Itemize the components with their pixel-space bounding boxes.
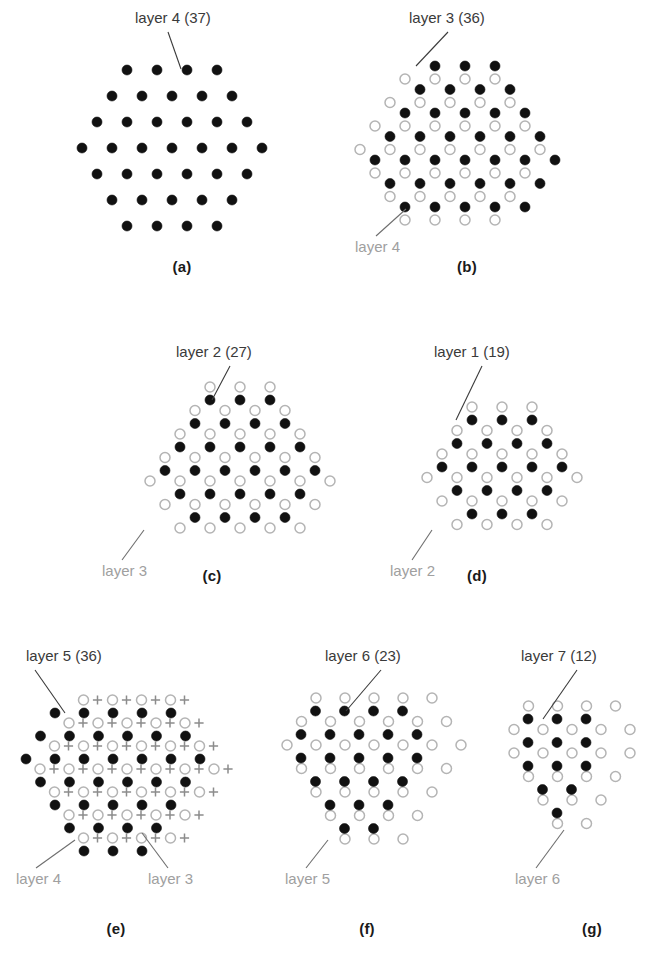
lattice-node-filled xyxy=(242,169,252,179)
panel-d-secondary-label-1: layer 2 xyxy=(390,562,435,579)
lattice-node-filled xyxy=(523,738,533,748)
lattice-node-open xyxy=(467,496,477,506)
panel-g-lattice: layer 7 (12) layer 6 xyxy=(485,644,670,889)
panel-b-primary-label: layer 3 (36) xyxy=(409,9,485,26)
lattice-node-filled xyxy=(467,509,477,519)
lattice-node-open xyxy=(166,833,176,843)
lattice-node-filled xyxy=(490,202,500,212)
lattice-node-open xyxy=(190,406,200,416)
lattice-node-open xyxy=(355,764,365,774)
lattice-node-filled xyxy=(412,730,422,740)
lattice-node-filled xyxy=(490,61,500,71)
lattice-node-filled xyxy=(205,489,215,499)
lattice-node-filled xyxy=(181,731,191,741)
lattice-node-open xyxy=(475,192,485,202)
lattice-node-filled xyxy=(181,777,191,787)
panel-e: layer 5 (36) layer 4 layer 3 xyxy=(8,644,258,889)
lattice-node-open xyxy=(250,453,260,463)
lattice-node-filled xyxy=(227,195,237,205)
lattice-node-open xyxy=(79,787,89,797)
lattice-node-filled xyxy=(250,513,260,523)
lattice-node-filled xyxy=(36,777,46,787)
lattice-node-open xyxy=(427,693,437,703)
lattice-node-open xyxy=(280,500,290,510)
panel-g-leader-line xyxy=(543,670,577,719)
lattice-node-plus xyxy=(165,810,174,819)
lattice-node-open xyxy=(145,476,155,486)
lattice-node-open xyxy=(505,98,515,108)
lattice-node-open xyxy=(311,693,321,703)
panel-c: layer 2 (27) layer 3 xyxy=(120,344,390,574)
lattice-node-filled xyxy=(122,169,132,179)
lattice-node-open xyxy=(180,810,190,820)
lattice-node-filled xyxy=(385,132,395,142)
lattice-node-open xyxy=(205,429,215,439)
lattice-node-open xyxy=(370,168,380,178)
panel-e-secondary-label-1: layer 4 xyxy=(16,870,61,887)
lattice-node-plus xyxy=(209,741,218,750)
lattice-node-open xyxy=(430,74,440,84)
lattice-node-plus xyxy=(122,695,131,704)
lattice-node-open xyxy=(538,748,548,758)
panel-f-primary-label: layer 6 (23) xyxy=(325,647,401,664)
lattice-node-open xyxy=(445,145,455,155)
lattice-node-filled xyxy=(398,706,408,716)
lattice-node-filled xyxy=(212,117,222,127)
lattice-node-open xyxy=(385,145,395,155)
panel-f-nodes xyxy=(282,693,466,844)
lattice-node-open xyxy=(280,406,290,416)
lattice-node-filled xyxy=(235,442,245,452)
lattice-node-filled xyxy=(505,179,515,189)
panel-e-secondary-label-2: layer 3 xyxy=(148,870,193,887)
panel-g-nodes xyxy=(509,701,635,829)
lattice-node-open xyxy=(108,741,118,751)
lattice-node-open xyxy=(509,748,519,758)
lattice-node-open xyxy=(64,764,74,774)
lattice-node-filled xyxy=(182,117,192,127)
panel-d-lattice: layer 1 (19) layer 2 xyxy=(390,344,650,574)
lattice-node-filled xyxy=(166,800,176,810)
lattice-node-filled xyxy=(430,155,440,165)
lattice-node-open xyxy=(482,426,492,436)
lattice-node-open xyxy=(512,520,522,530)
lattice-node-filled xyxy=(92,169,102,179)
lattice-node-filled xyxy=(166,754,176,764)
lattice-node-filled xyxy=(280,466,290,476)
lattice-node-filled xyxy=(190,419,200,429)
lattice-node-open xyxy=(490,121,500,131)
lattice-node-plus xyxy=(194,810,203,819)
panel-b-leader-line xyxy=(416,32,448,66)
lattice-node-filled xyxy=(242,117,252,127)
lattice-node-filled xyxy=(122,117,132,127)
lattice-node-filled xyxy=(369,777,379,787)
lattice-node-filled xyxy=(123,823,133,833)
lattice-node-open xyxy=(505,145,515,155)
lattice-node-open xyxy=(596,795,606,805)
lattice-node-filled xyxy=(552,761,562,771)
lattice-node-open xyxy=(398,693,408,703)
lattice-node-plus xyxy=(107,810,116,819)
lattice-node-open xyxy=(297,764,307,774)
lattice-node-filled xyxy=(235,489,245,499)
lattice-node-open xyxy=(50,741,60,751)
lattice-node-open xyxy=(442,717,452,727)
panel-f-lattice: layer 6 (23) layer 5 xyxy=(265,644,485,889)
panel-f-secondary-label-1: layer 5 xyxy=(285,870,330,887)
lattice-node-open xyxy=(79,833,89,843)
lattice-node-open xyxy=(310,453,320,463)
lattice-node-filled xyxy=(296,753,306,763)
panel-g-secondary-label-1: layer 6 xyxy=(515,870,560,887)
lattice-node-open xyxy=(415,192,425,202)
lattice-node-open xyxy=(413,764,423,774)
lattice-node-open xyxy=(108,695,118,705)
lattice-node-filled xyxy=(107,195,117,205)
lattice-node-filled xyxy=(452,439,462,449)
lattice-node-filled xyxy=(354,800,364,810)
lattice-node-filled xyxy=(354,753,364,763)
lattice-node-filled xyxy=(137,846,147,856)
panel-c-secondary-leader-line-1 xyxy=(122,530,144,560)
lattice-node-open xyxy=(475,98,485,108)
lattice-node-open xyxy=(166,741,176,751)
lattice-node-filled xyxy=(452,486,462,496)
lattice-node-open xyxy=(452,520,462,530)
